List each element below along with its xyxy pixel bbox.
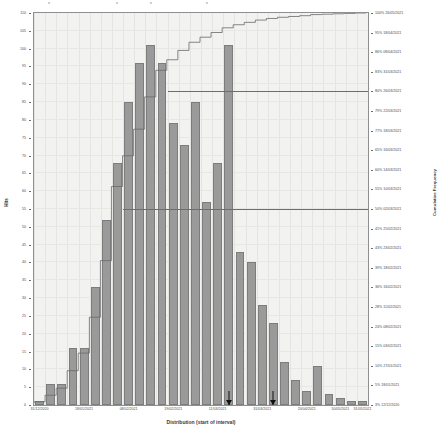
y-axis-tick-label: 30 — [22, 296, 26, 300]
secondary-y-axis-tick — [371, 405, 373, 406]
image-artifact — [48, 2, 50, 4]
top-artifact-row — [0, 0, 439, 10]
secondary-y-axis-tick — [371, 111, 373, 112]
y-axis-tick-label: 35 — [22, 278, 26, 282]
plot-area — [33, 12, 369, 406]
secondary-y-axis-tick-label: 60% 14/03/2021 — [375, 168, 401, 172]
secondary-y-axis-tick — [371, 13, 373, 14]
x-axis-tick-label: 31/12/2020 — [31, 407, 49, 412]
secondary-y-axis-tick — [371, 33, 373, 34]
y-axis-tick — [29, 156, 31, 157]
y-axis-tick — [29, 120, 31, 121]
y-axis-tick — [29, 138, 31, 139]
x-axis-tick-label: 31/03/2021 — [253, 407, 271, 412]
secondary-y-axis-title: Cumulative Frequency — [432, 163, 437, 223]
secondary-y-axis-tick — [371, 72, 373, 73]
secondary-y-axis-tick-label: 24% 08/02/2021 — [375, 325, 401, 329]
y-axis-tick-label: 40 — [22, 260, 26, 264]
y-axis-tick-label: 55 — [22, 207, 26, 211]
y-axis-tick-label: 70 — [22, 154, 26, 158]
y-axis-tick — [29, 227, 31, 228]
y-axis-tick — [29, 369, 31, 370]
secondary-y-axis-tick — [371, 287, 373, 288]
image-artifact — [150, 2, 152, 4]
secondary-y-axis-tick-label: 28% 11/02/2021 — [375, 305, 401, 309]
secondary-y-axis-tick — [371, 346, 373, 347]
x-axis-tick-label: 19/02/2021 — [164, 407, 182, 412]
y-axis-tick — [29, 31, 31, 32]
secondary-y-axis-tick — [371, 268, 373, 269]
image-artifact — [206, 2, 208, 4]
secondary-y-axis-tick-label: 10% 27/01/2021 — [375, 364, 401, 368]
y-axis-tick-label: 25 — [22, 314, 26, 318]
secondary-y-axis-tick — [371, 248, 373, 249]
secondary-y-axis-tick — [371, 209, 373, 210]
y-axis-tick — [29, 387, 31, 388]
secondary-y-axis-tick — [371, 385, 373, 386]
y-axis-tick — [29, 280, 31, 281]
y-axis-tick — [29, 102, 31, 103]
secondary-y-axis-tick — [371, 327, 373, 328]
secondary-y-axis-tick-label: 43% 23/02/2021 — [375, 246, 401, 250]
y-axis-tick-label: 85 — [22, 100, 26, 104]
ogive-polyline — [34, 13, 366, 403]
y-axis-tick — [29, 352, 31, 353]
secondary-y-axis-tick-label: 55% 10/03/2021 — [375, 187, 401, 191]
secondary-y-axis-tick-label: 5% 18/01/2021 — [375, 383, 399, 387]
secondary-y-axis-tick — [371, 150, 373, 151]
secondary-y-axis-tick-label: 15% 03/02/2021 — [375, 344, 401, 348]
y-axis-tick-label: 110 — [20, 11, 26, 15]
y-axis-tick-label: 100 — [20, 47, 26, 51]
y-axis-tick-label: 80 — [22, 118, 26, 122]
secondary-y-axis-tick-label: 39% 18/02/2021 — [375, 266, 401, 270]
image-artifact — [116, 2, 118, 4]
secondary-y-axis-tick-label: 95% 18/04/2021 — [375, 31, 401, 35]
secondary-y-axis-tick-label: 77% 18/03/2021 — [375, 129, 401, 133]
marker-right — [270, 400, 276, 405]
secondary-y-axis-tick-label: 83% 31/03/2021 — [375, 70, 401, 74]
y-axis-tick — [29, 334, 31, 335]
secondary-y-axis: 100% 26/05/202195% 18/04/202186% 08/04/2… — [371, 12, 433, 406]
y-axis-tick — [29, 316, 31, 317]
x-axis-title: Distribution (start of interval) — [33, 419, 369, 425]
secondary-y-axis-tick — [371, 131, 373, 132]
y-axis-tick-label: 50 — [22, 225, 26, 229]
secondary-y-axis-tick-label: 50% 02/03/2021 — [375, 207, 401, 211]
secondary-y-axis-tick-label: 65% 16/03/2021 — [375, 148, 401, 152]
y-axis-tick — [29, 245, 31, 246]
y-axis-tick-label: 65 — [22, 171, 26, 175]
secondary-y-axis-tick — [371, 52, 373, 53]
y-axis-tick-label: 5 — [24, 385, 26, 389]
y-axis-tick — [29, 191, 31, 192]
y-axis-tick — [29, 13, 31, 14]
x-axis-tick-label: 10/05/2021 — [331, 407, 349, 412]
y-axis-tick — [29, 173, 31, 174]
y-axis-tick — [29, 84, 31, 85]
y-axis-tick — [29, 262, 31, 263]
secondary-y-axis-tick — [371, 307, 373, 308]
y-axis-tick-label: 20 — [22, 332, 26, 336]
y-axis-tick-label: 60 — [22, 189, 26, 193]
y-axis-tick-label: 15 — [22, 350, 26, 354]
secondary-y-axis-tick — [371, 91, 373, 92]
x-axis: 31/12/202018/01/202108/02/202119/02/2021… — [33, 407, 369, 419]
y-axis-tick-label: 45 — [22, 243, 26, 247]
secondary-y-axis-tick — [371, 189, 373, 190]
y-axis-tick — [29, 298, 31, 299]
y-axis-tick-label: 95 — [22, 64, 26, 68]
y-axis-tick-label: 105 — [20, 29, 26, 33]
secondary-y-axis-tick-label: 80% 26/03/2021 — [375, 89, 401, 93]
marker-left — [226, 400, 232, 405]
secondary-y-axis-tick-label: 41% 25/02/2021 — [375, 227, 401, 231]
y-axis-tick-label: 90 — [22, 82, 26, 86]
x-axis-tick-label: 31/05/2021 — [353, 407, 371, 412]
secondary-y-axis-tick-label: 86% 08/04/2021 — [375, 50, 401, 54]
y-axis-title: Hits — [4, 188, 9, 218]
y-axis-tick-label: 10 — [22, 367, 26, 371]
histogram-chart: 1101051009590858075706560555045403530252… — [0, 0, 439, 442]
x-axis-tick-label: 11/03/2021 — [209, 407, 227, 412]
x-axis-tick-label: 20/04/2021 — [298, 407, 316, 412]
x-axis-tick-label: 08/02/2021 — [120, 407, 138, 412]
x-axis-tick-label: 18/01/2021 — [75, 407, 93, 412]
secondary-y-axis-tick-label: 100% 26/05/2021 — [375, 11, 403, 15]
